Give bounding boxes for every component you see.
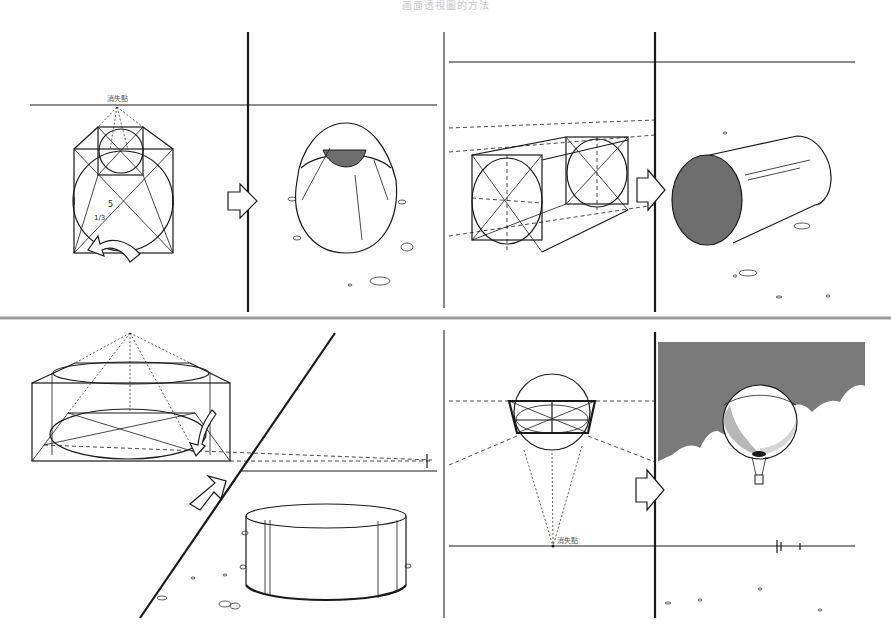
- curved-arrow-icon: [190, 410, 216, 456]
- panel-top-right: [449, 32, 855, 312]
- panel-top-left: 消失點 5 1/3: [30, 32, 437, 312]
- down-left-arrow-icon: [190, 476, 226, 510]
- right-arrow-icon: [636, 470, 664, 510]
- panel-bottom-left: [32, 333, 437, 618]
- svg-text:5: 5: [108, 200, 113, 209]
- perspective-illustration: .ink { stroke:#1a1a1a; fill:none; stroke…: [0, 0, 891, 643]
- vanishing-point-label: 消失點: [557, 536, 578, 545]
- panel-bottom-right: 消失點: [449, 332, 865, 618]
- curved-arrow-icon: [88, 236, 140, 262]
- ground-marks: [665, 588, 822, 611]
- svg-text:1/3: 1/3: [94, 214, 105, 222]
- right-arrow-icon: [228, 184, 257, 218]
- right-arrow-icon: [637, 170, 665, 210]
- vanishing-point-label: 消失點: [107, 94, 128, 103]
- hot-air-balloon: [723, 385, 797, 484]
